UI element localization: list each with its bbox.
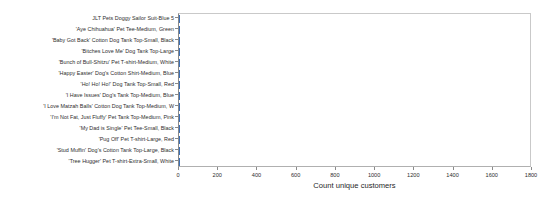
bar-row: 'Aye Chihuahua' Pet Tee-Medium, Green [0,24,531,35]
bar-row: 'Tree Hugger' Pet T-shirt-Extra-Small, W… [0,156,531,167]
y-axis-category-label: 'Stud Muffin' Dog's Cotton Tank Top-Larg… [57,145,174,156]
y-axis-category-label: 'Tree Hugger' Pet T-shirt-Extra-Small, W… [69,156,174,167]
y-axis-category-label: 'Bitches Love Me' Dog Tank Top-Large [82,46,174,57]
y-axis-tick [175,50,178,51]
x-axis-tick [531,167,532,170]
x-axis-tick [413,167,414,170]
x-axis-tick-label: 0 [176,171,179,179]
bar [179,158,180,166]
bar [179,147,180,155]
x-axis: Count unique customers 02004006008001000… [178,167,531,200]
bar-chart-figure: JLT Pets Doggy Sailor Suit-Blue 5'Aye Ch… [0,0,557,200]
y-axis-tick [175,83,178,84]
y-axis-tick [175,105,178,106]
bar-row: JLT Pets Doggy Sailor Suit-Blue 5 [0,13,531,24]
x-axis-tick-label: 400 [252,171,261,179]
y-axis-tick [175,149,178,150]
bar [179,37,180,45]
y-axis-tick [175,127,178,128]
bar-row: 'Bunch of Bull-Shitzu' Pet T-shirt-Mediu… [0,57,531,68]
x-axis-tick-label: 1000 [368,171,380,179]
bar-row: 'Happy Easter' Dog's Cotton Shirt-Medium… [0,68,531,79]
y-axis-category-label: 'My Dad is Single' Pet Tee-Small, Black [80,123,174,134]
x-axis-tick-label: 1800 [525,171,537,179]
y-axis-tick [175,17,178,18]
y-axis-tick [175,28,178,29]
x-axis-tick [335,167,336,170]
bar-row: 'I'm Not Fat, Just Fluffy' Pet Tank Top-… [0,112,531,123]
y-axis-tick [175,138,178,139]
x-axis-tick-label: 1400 [446,171,458,179]
y-axis-tick [175,94,178,95]
bar [179,59,180,67]
x-axis-title: Count unique customers [178,181,531,191]
y-axis-category-label: JLT Pets Doggy Sailor Suit-Blue 5 [92,13,174,24]
bar [179,136,180,144]
y-axis-category-label: 'Happy Easter' Dog's Cotton Shirt-Medium… [59,68,174,79]
x-axis-tick-label: 200 [213,171,222,179]
bar [179,125,180,133]
y-axis-tick [175,160,178,161]
y-axis-tick [175,116,178,117]
x-axis-tick [217,167,218,170]
x-axis-tick-label: 1600 [486,171,498,179]
y-axis-category-label: 'Baby Got Back' Cotton Dog Tank Top-Smal… [52,35,174,46]
bar [179,114,180,122]
bar-row: 'Baby Got Back' Cotton Dog Tank Top-Smal… [0,35,531,46]
x-axis-tick-label: 1200 [407,171,419,179]
x-axis-tick [296,167,297,170]
bar-row: 'My Dad is Single' Pet Tee-Small, Black [0,123,531,134]
bar-row: 'Stud Muffin' Dog's Cotton Tank Top-Larg… [0,145,531,156]
y-axis-category-label: 'Ho! Ho! Ho!' Dog Tank Top-Small, Red [81,79,174,90]
x-axis-tick [492,167,493,170]
x-axis-tick-label: 600 [291,171,300,179]
y-axis-category-label: 'Bunch of Bull-Shitzu' Pet T-shirt-Mediu… [59,57,174,68]
x-axis-tick-label: 800 [330,171,339,179]
y-axis-tick [175,61,178,62]
y-axis-category-label: 'I Love Matzah Balls' Cotton Dog Tank To… [43,101,174,112]
bar [179,26,180,34]
y-axis-category-label: 'Pug Off' Pet T-shirt-Large, Red [99,134,174,145]
bar [179,70,180,78]
y-axis-category-label: 'I Have Issues' Dog's Tank Top-Medium, B… [66,90,174,101]
category-rows: JLT Pets Doggy Sailor Suit-Blue 5'Aye Ch… [0,13,531,167]
bar-row: 'I Love Matzah Balls' Cotton Dog Tank To… [0,101,531,112]
bar-row: 'I Have Issues' Dog's Tank Top-Medium, B… [0,90,531,101]
bar [179,48,180,56]
y-axis-tick [175,39,178,40]
bar-row: 'Ho! Ho! Ho!' Dog Tank Top-Small, Red [0,79,531,90]
x-axis-tick [256,167,257,170]
bar [179,103,180,111]
y-axis-category-label: 'I'm Not Fat, Just Fluffy' Pet Tank Top-… [50,112,174,123]
bar-row: 'Pug Off' Pet T-shirt-Large, Red [0,134,531,145]
y-axis-category-label: 'Aye Chihuahua' Pet Tee-Medium, Green [76,24,174,35]
x-axis-tick [453,167,454,170]
bar [179,81,180,89]
bar [179,15,180,23]
y-axis-tick [175,72,178,73]
bar-row: 'Bitches Love Me' Dog Tank Top-Large [0,46,531,57]
x-axis-tick [374,167,375,170]
bar [179,92,180,100]
x-axis-tick [178,167,179,170]
